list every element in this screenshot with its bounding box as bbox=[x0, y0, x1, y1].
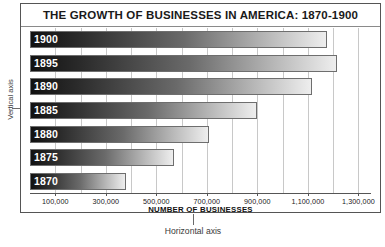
bar[interactable] bbox=[30, 102, 257, 119]
bar-category-label: 1880 bbox=[34, 126, 58, 143]
bar-category-label: 1890 bbox=[34, 78, 58, 95]
bar-row[interactable]: 1885 bbox=[30, 102, 371, 119]
bar-row[interactable]: 1880 bbox=[30, 126, 371, 143]
x-axis-tick bbox=[358, 193, 359, 196]
x-axis-line bbox=[30, 193, 371, 194]
bar[interactable] bbox=[30, 31, 327, 48]
x-axis-tick bbox=[156, 193, 157, 196]
x-axis-tick bbox=[55, 193, 56, 196]
bar-category-label: 1900 bbox=[34, 31, 58, 48]
bar-row[interactable]: 1890 bbox=[30, 78, 371, 95]
x-axis-title: NUMBER OF BUSINESSES bbox=[30, 205, 371, 214]
bar-category-label: 1885 bbox=[34, 102, 58, 119]
x-axis-tick bbox=[207, 193, 208, 196]
chart-figure: THE GROWTH OF BUSINESSES IN AMERICA: 187… bbox=[0, 0, 385, 247]
bar-row[interactable]: 1870 bbox=[30, 173, 371, 190]
chart-title: THE GROWTH OF BUSINESSES IN AMERICA: 187… bbox=[21, 4, 380, 27]
x-axis-tick bbox=[308, 193, 309, 196]
bar-row[interactable]: 1900 bbox=[30, 31, 371, 48]
bar-category-label: 1895 bbox=[34, 55, 58, 72]
x-axis-tick bbox=[106, 193, 107, 196]
horizontal-axis-leader-line bbox=[193, 214, 194, 225]
bar-category-label: 1875 bbox=[34, 149, 58, 166]
bar-series: 1900189518901885188018751870 bbox=[30, 28, 371, 193]
bar-category-label: 1870 bbox=[34, 173, 58, 190]
bar[interactable] bbox=[30, 55, 337, 72]
bar[interactable] bbox=[30, 78, 312, 95]
x-axis-tick bbox=[257, 193, 258, 196]
horizontal-axis-annotation: Horizontal axis bbox=[133, 226, 253, 236]
vertical-axis-annotation: Vertical axis bbox=[6, 68, 15, 132]
bar-row[interactable]: 1895 bbox=[30, 55, 371, 72]
bar-row[interactable]: 1875 bbox=[30, 149, 371, 166]
plot-area: 1900189518901885188018751870 bbox=[30, 28, 371, 193]
